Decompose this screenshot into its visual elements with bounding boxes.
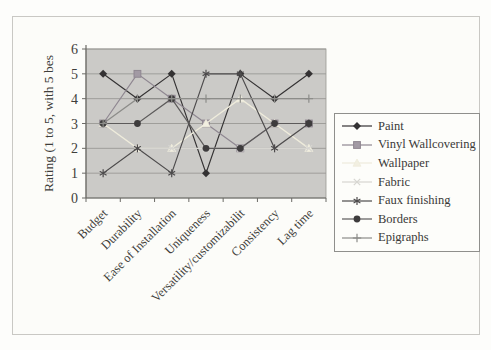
marker-circle (203, 145, 210, 152)
legend-key-plus-icon (341, 231, 373, 245)
legend-key-diamond-icon (341, 119, 373, 133)
legend-label: Wallpaper (378, 156, 429, 171)
y-tick-label: 1 (71, 166, 78, 181)
marker-diamond (353, 122, 361, 130)
marker-square (354, 141, 361, 148)
chart-legend: PaintVinyl WallcoveringWallpaperFabricFa… (334, 113, 480, 252)
scanned-chart-page: 0123456BudgetDurabilityEase of Installat… (0, 0, 491, 350)
y-tick-label: 4 (71, 92, 78, 107)
y-axis-title: Rating (1 to 5, with 5 bes (41, 55, 56, 192)
legend-key-circle-icon (341, 212, 373, 226)
y-tick-label: 3 (71, 117, 78, 132)
y-tick-label: 6 (71, 42, 78, 57)
marker-square (134, 70, 141, 77)
legend-label: Vinyl Wallcovering (378, 137, 476, 152)
legend-item-vinyl-wallcovering: Vinyl Wallcovering (341, 136, 479, 155)
marker-circle (134, 120, 141, 127)
y-tick-label: 5 (71, 67, 78, 82)
legend-label: Faux finishing (378, 193, 451, 208)
legend-key-square-icon (341, 138, 373, 152)
y-tick-label: 0 (71, 191, 78, 206)
legend-item-wallpaper: Wallpaper (341, 154, 479, 173)
legend-label: Epigraphs (378, 230, 429, 245)
legend-label: Paint (378, 119, 404, 134)
legend-item-epigraphs: Epigraphs (341, 229, 479, 248)
legend-item-fabric: Fabric (341, 173, 479, 192)
legend-label: Borders (378, 212, 418, 227)
legend-item-paint: Paint (341, 117, 479, 136)
legend-label: Fabric (378, 175, 410, 190)
x-category-label: Lag time (274, 206, 316, 248)
marker-plus (353, 234, 361, 242)
legend-item-faux-finishing: Faux finishing (341, 191, 479, 210)
marker-circle (354, 216, 361, 223)
marker-circle (237, 145, 244, 152)
marker-circle (305, 120, 312, 127)
legend-key-x-icon (341, 175, 373, 189)
chart-figure: 0123456BudgetDurabilityEase of Installat… (12, 16, 480, 335)
legend-key-asterisk-icon (341, 194, 373, 208)
legend-item-borders: Borders (341, 210, 479, 229)
legend-key-triangle-icon (341, 156, 373, 170)
y-tick-label: 2 (71, 141, 78, 156)
marker-circle (271, 120, 278, 127)
